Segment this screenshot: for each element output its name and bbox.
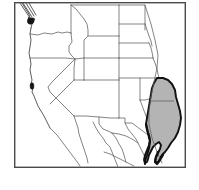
puget-sound-marker-tail (31, 18, 34, 21)
map-canvas (0, 0, 199, 190)
san-francisco-bay-marker (30, 83, 34, 89)
distribution-map-figure: Western United States distribution map (0, 0, 199, 190)
